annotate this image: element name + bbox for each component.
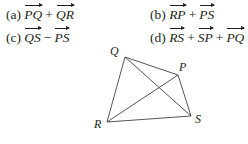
- vertex-label-P: P: [179, 60, 186, 75]
- edge-SR: [107, 116, 191, 122]
- vertex-label-Q: Q: [110, 44, 119, 59]
- edge-QP: [125, 57, 178, 75]
- vertex-label-R: R: [94, 117, 101, 132]
- vertex-label-S: S: [195, 112, 201, 127]
- quadrilateral-figure: [0, 0, 248, 144]
